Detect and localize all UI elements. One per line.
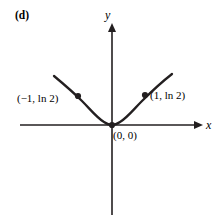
point-label-right: (1, ln 2) [150,89,185,101]
x-axis-label: x [206,118,211,133]
figure-panel-d: (d) y x (−1, ln 2) (1, ln 2) (0, 0) [0,0,221,222]
point-marker-right [142,92,148,98]
y-axis-label: y [105,8,110,23]
point-marker-left [75,93,81,99]
point-label-origin: (0, 0) [113,129,137,141]
point-label-left: (−1, ln 2) [17,92,58,104]
y-axis [108,23,116,215]
point-marker-origin [109,122,115,128]
panel-label: (d) [15,9,29,21]
y-axis-arrow-icon [108,23,116,32]
x-axis-arrow-icon [194,121,203,129]
graph-canvas [0,0,221,222]
